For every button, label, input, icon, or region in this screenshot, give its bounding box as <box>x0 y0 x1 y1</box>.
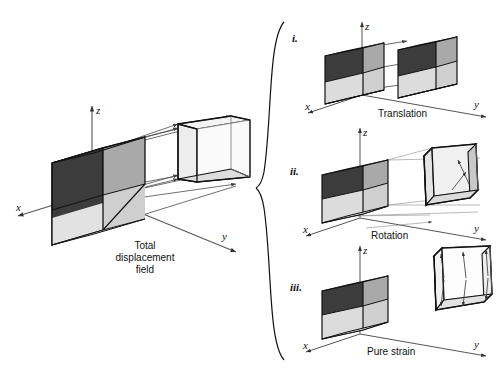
decomposition-brace <box>256 22 284 360</box>
z-axis-label: z <box>362 244 368 256</box>
panel-i-numeral: i. <box>292 32 298 44</box>
main-caption: Total displacement field <box>116 240 175 275</box>
panel-iii-cube-original <box>322 276 388 339</box>
y-axis-label: y <box>473 98 479 110</box>
x-axis-label: x <box>15 201 21 213</box>
displaced-cube <box>178 116 250 182</box>
y-axis-label: y <box>473 338 479 350</box>
caption-line-3: field <box>136 264 154 275</box>
panel-i-caption: Translation <box>378 108 427 119</box>
panel-pure-strain: iii. z x y <box>290 244 492 357</box>
panel-iii-caption: Pure strain <box>367 346 415 357</box>
panel-ii-cube-rotated <box>424 144 478 205</box>
x-axis-label: x <box>302 223 308 235</box>
panel-translation: i. z x y <box>292 20 486 119</box>
panel-i-cube-translated <box>398 37 457 98</box>
x-axis-label: x <box>304 100 310 112</box>
panel-ii-cube-original <box>322 160 388 223</box>
reference-cube <box>52 137 145 245</box>
panel-iii-numeral: iii. <box>290 281 302 293</box>
x-axis-label: x <box>302 339 308 351</box>
caption-line-1: Total <box>134 240 155 251</box>
main-panel-group: z x y <box>15 104 250 275</box>
z-axis-label: z <box>95 104 101 116</box>
panel-ii-caption: Rotation <box>371 230 408 241</box>
panel-i-cube-original <box>325 43 384 104</box>
z-axis-label: z <box>364 20 370 32</box>
figure-canvas: z x y <box>0 0 502 370</box>
displacement-decomposition-figure: z x y <box>0 0 502 370</box>
caption-line-2: displacement <box>116 252 175 263</box>
z-axis-label: z <box>362 126 368 138</box>
y-axis-label: y <box>473 222 479 234</box>
panel-rotation: ii. z x y <box>290 126 486 241</box>
panel-ii-numeral: ii. <box>290 165 299 177</box>
y-axis-label: y <box>221 230 227 242</box>
panel-iii-cube-strained <box>434 246 492 310</box>
